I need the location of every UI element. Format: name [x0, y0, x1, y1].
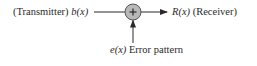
transmitter-signal-text: b(x) — [71, 6, 88, 17]
adder-icon — [125, 4, 141, 20]
transmitter-label: (Transmitter) b(x) — [13, 7, 88, 18]
error-role-text: Error pattern — [126, 44, 183, 55]
error-pattern-label: e(x) Error pattern — [110, 45, 183, 56]
receiver-label: R(x) (Receiver) — [172, 7, 237, 18]
error-signal-text: e(x) — [110, 44, 126, 55]
receiver-signal-text: R(x) — [172, 6, 190, 17]
receiver-role-text: (Receiver) — [190, 6, 237, 17]
transmitter-role-text: (Transmitter) — [13, 6, 71, 17]
error-channel-diagram: (Transmitter) b(x) R(x) (Receiver) e(x) … — [0, 0, 257, 66]
